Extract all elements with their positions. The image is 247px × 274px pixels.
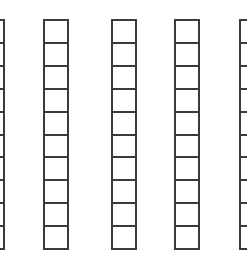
unit-square — [176, 65, 198, 88]
unit-square — [45, 111, 67, 134]
unit-square — [176, 156, 198, 179]
unit-square — [176, 88, 198, 111]
unit-square — [0, 21, 3, 42]
unit-square — [176, 111, 198, 134]
unit-square — [113, 21, 135, 42]
unit-square — [45, 88, 67, 111]
unit-square — [0, 225, 3, 248]
unit-square — [241, 65, 247, 88]
unit-square — [0, 111, 3, 134]
unit-square — [45, 225, 67, 248]
unit-square — [45, 202, 67, 225]
unit-square — [241, 111, 247, 134]
unit-square — [176, 202, 198, 225]
unit-square — [176, 134, 198, 157]
ten-rod — [111, 19, 137, 250]
unit-square — [113, 156, 135, 179]
unit-square — [0, 42, 3, 65]
unit-square — [176, 225, 198, 248]
unit-square — [241, 202, 247, 225]
unit-square — [0, 65, 3, 88]
unit-square — [241, 21, 247, 42]
unit-square — [113, 134, 135, 157]
unit-square — [176, 21, 198, 42]
unit-square — [0, 134, 3, 157]
unit-square — [0, 202, 3, 225]
unit-square — [0, 179, 3, 202]
ten-rod — [174, 19, 200, 250]
unit-square — [176, 179, 198, 202]
unit-square — [241, 156, 247, 179]
unit-square — [45, 21, 67, 42]
unit-square — [45, 156, 67, 179]
unit-square — [45, 42, 67, 65]
unit-square — [45, 65, 67, 88]
unit-square — [241, 42, 247, 65]
unit-square — [241, 134, 247, 157]
unit-square — [45, 179, 67, 202]
unit-square — [241, 179, 247, 202]
unit-square — [113, 179, 135, 202]
unit-square — [113, 111, 135, 134]
ten-rod — [0, 19, 5, 250]
ten-rod — [239, 19, 247, 250]
unit-square — [113, 88, 135, 111]
unit-square — [113, 225, 135, 248]
unit-square — [113, 202, 135, 225]
unit-square — [113, 65, 135, 88]
unit-square — [113, 42, 135, 65]
unit-square — [176, 42, 198, 65]
unit-square — [0, 88, 3, 111]
unit-square — [241, 88, 247, 111]
base-ten-rods-diagram — [0, 0, 247, 274]
unit-square — [0, 156, 3, 179]
ten-rod — [43, 19, 69, 250]
unit-square — [241, 225, 247, 248]
unit-square — [45, 134, 67, 157]
